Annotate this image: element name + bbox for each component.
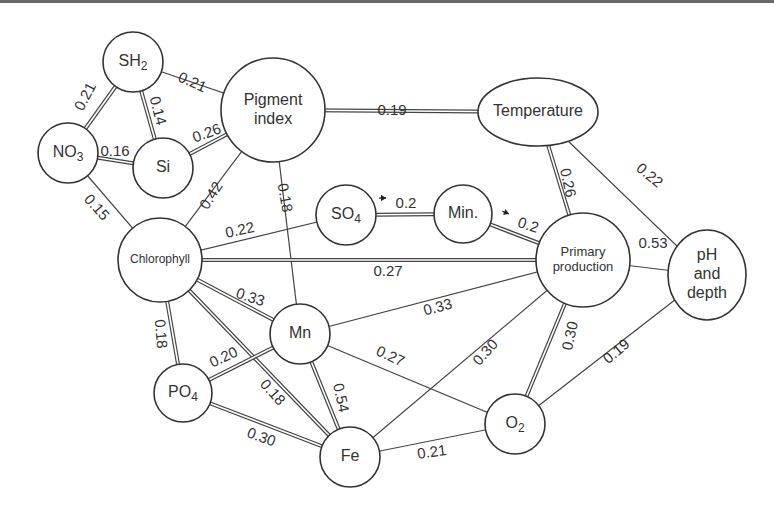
- edge-weight-label: 0.21: [176, 68, 210, 95]
- node-sh2: SH2: [103, 32, 163, 92]
- edge-weight-label: 0.22: [633, 159, 666, 191]
- edge-weight-label: 0.19: [599, 335, 632, 367]
- node-label: depth: [687, 284, 727, 301]
- node-min: Min.: [434, 185, 492, 243]
- node-label: Mn: [289, 324, 311, 341]
- node-no3: NO3: [38, 123, 98, 183]
- node-label: and: [694, 265, 721, 282]
- edge-weight-label: 0.16: [100, 142, 129, 159]
- edge-weight-label: 0.30: [558, 320, 581, 352]
- edge-weight-label: 0.27: [373, 262, 402, 279]
- node-label: Fe: [341, 447, 360, 464]
- node-label: Si: [156, 158, 170, 175]
- edge-weight-label: 0.2: [396, 194, 417, 211]
- direction-arrow-icon: [379, 195, 386, 201]
- edge-weight-label: 0.18: [275, 182, 297, 214]
- node-label: index: [254, 110, 292, 127]
- node-fe: Fe: [320, 427, 380, 487]
- node-label: Primary: [561, 244, 606, 259]
- node-po4: PO4: [154, 364, 212, 422]
- node-so4: SO4: [316, 185, 376, 245]
- edge-weight-label: 0.33: [421, 295, 454, 319]
- edge-weight-label: 0.15: [81, 190, 113, 223]
- node-ph: pHanddepth: [668, 230, 746, 320]
- node-label: pH: [697, 246, 717, 263]
- edge-weight-label: 0.33: [234, 284, 267, 309]
- node-primary: Primaryproduction: [536, 213, 630, 307]
- node-label: Chlorophyll: [130, 252, 190, 266]
- edge-weight-label: 0.2: [516, 213, 541, 236]
- edge-weight-label: 0.26: [557, 167, 580, 199]
- node-o2: O2: [485, 394, 545, 454]
- edge-weight-label: 0.53: [638, 234, 667, 251]
- node-mn: Mn: [270, 304, 330, 364]
- edge-weight-label: 0.21: [70, 79, 99, 113]
- node-chlorophyll: Chlorophyll: [118, 218, 202, 302]
- direction-arrow-icon: [501, 208, 510, 216]
- edge-weight-label: 0.26: [190, 120, 223, 146]
- edge-weight-label: 0.54: [330, 382, 353, 414]
- edge-weight-label: 0.19: [377, 101, 406, 118]
- node-temperature: Temperature: [478, 78, 598, 146]
- edge-weight-label: 0.21: [416, 441, 447, 462]
- node-si: Si: [133, 138, 193, 198]
- edge-weight-label: 0.18: [257, 375, 289, 408]
- node-label: Min.: [448, 204, 478, 221]
- node-label: Pigment: [244, 91, 303, 108]
- edge-weight-label: 0.18: [152, 319, 171, 350]
- correlation-network-diagram: SH2PigmentindexNO3SiTemperatureChlorophy…: [0, 0, 774, 510]
- node-label: Temperature: [493, 102, 583, 119]
- node-pigment: Pigmentindex: [221, 58, 325, 162]
- edge-weight-label: 0.27: [374, 342, 408, 370]
- edge-weight-label: 0.30: [469, 335, 501, 368]
- edge-weight-label: 0.42: [196, 178, 226, 212]
- node-label: production: [553, 259, 614, 274]
